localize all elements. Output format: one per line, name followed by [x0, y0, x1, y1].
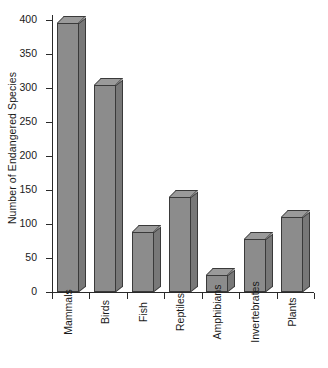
y-axis-tick: 400	[46, 20, 52, 21]
x-axis-line	[52, 292, 314, 293]
bar	[169, 197, 191, 292]
figure-caption	[0, 360, 328, 368]
bar	[206, 275, 228, 292]
bar	[132, 232, 154, 292]
y-axis-tick: 350	[46, 54, 52, 55]
x-axis-label: Amphibians	[192, 300, 242, 360]
bar-front-face	[244, 239, 266, 292]
y-axis-tick-label: 100	[19, 217, 37, 229]
bar	[281, 217, 303, 292]
x-axis-label-text: Mammals	[62, 289, 74, 335]
x-axis-tick	[277, 293, 278, 299]
y-axis-tick-label: 300	[19, 81, 37, 93]
x-axis-tick	[202, 293, 203, 299]
y-axis-tick: 300	[46, 88, 52, 89]
bar-front-face	[206, 275, 228, 292]
y-axis-tick: 200	[46, 156, 52, 157]
bar-front-face	[132, 232, 154, 292]
x-axis-tick	[314, 293, 315, 299]
y-axis-tick: 250	[46, 122, 52, 123]
bar	[94, 85, 116, 292]
x-axis-label-text: Plants	[286, 297, 298, 326]
x-axis-label: Mammals	[43, 300, 93, 360]
x-axis-tick	[127, 293, 128, 299]
y-axis-tick-label: 350	[19, 47, 37, 59]
x-axis-label: Plants	[267, 300, 317, 360]
bar-side-face	[79, 17, 86, 292]
y-axis-tick: 50	[46, 258, 52, 259]
x-axis-tick	[89, 293, 90, 299]
bar-front-face	[281, 217, 303, 292]
plot-area: 050100150200250300350400	[52, 15, 314, 293]
x-axis-tick	[239, 293, 240, 299]
bar-side-face	[154, 227, 161, 292]
bar	[57, 23, 79, 292]
x-axis-label: Fish	[118, 300, 168, 360]
y-axis-line	[52, 15, 53, 293]
y-axis-tick-label: 200	[19, 149, 37, 161]
bar-side-face	[116, 80, 123, 292]
y-axis-tick-label: 250	[19, 115, 37, 127]
bar-front-face	[94, 85, 116, 292]
bar	[244, 239, 266, 292]
y-axis-tick-label: 150	[19, 183, 37, 195]
x-axis-label-text: Birds	[99, 300, 111, 324]
bar-side-face	[303, 212, 310, 292]
x-axis-label: Birds	[80, 300, 130, 360]
x-axis-tick	[164, 293, 165, 299]
bar-chart-figure: Number of Endangered Species 05010015020…	[0, 0, 328, 368]
y-axis-title: Number of Endangered Species	[2, 0, 22, 296]
bar-side-face	[266, 233, 273, 292]
x-axis-tick	[52, 293, 53, 299]
y-axis-tick-label: 0	[31, 285, 37, 297]
bar-front-face	[169, 197, 191, 292]
x-axis-label: Invertebrates	[230, 300, 280, 360]
x-axis-label-text: Fish	[137, 302, 149, 322]
bar-side-face	[191, 191, 198, 292]
y-axis-tick: 100	[46, 224, 52, 225]
x-axis-label-text: Reptiles	[174, 293, 186, 331]
y-axis-tick-label: 400	[19, 13, 37, 25]
y-axis-tick-label: 50	[25, 251, 37, 263]
y-axis-title-text: Number of Endangered Species	[6, 72, 18, 224]
x-axis-label: Reptiles	[155, 300, 205, 360]
y-axis-tick: 150	[46, 190, 52, 191]
bar-front-face	[57, 23, 79, 292]
